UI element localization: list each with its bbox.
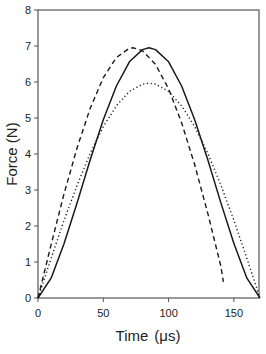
y-axis-ticks: 012345678: [25, 4, 38, 304]
y-axis-title: Force (N): [3, 122, 20, 185]
y-tick-label: 8: [25, 4, 31, 16]
plot-frame: [38, 10, 259, 298]
y-tick-label: 3: [25, 184, 31, 196]
series-solid-line: [38, 48, 260, 298]
y-tick-label: 2: [25, 220, 31, 232]
x-tick-label: 100: [159, 307, 177, 319]
x-tick-label: 150: [225, 307, 243, 319]
x-tick-label: 50: [97, 307, 109, 319]
x-axis-title: Time(μs): [116, 327, 181, 344]
x-tick-label: 0: [35, 307, 41, 319]
y-tick-label: 4: [25, 148, 31, 160]
force-time-chart: 012345678 050100150 Force (N) Time(μs): [0, 0, 266, 354]
x-axis-ticks: 050100150: [35, 298, 243, 319]
data-series: [38, 48, 260, 298]
x-axis-unit: (μs): [154, 327, 180, 344]
y-tick-label: 5: [25, 112, 31, 124]
y-tick-label: 0: [25, 292, 31, 304]
y-tick-label: 7: [25, 40, 31, 52]
y-tick-label: 6: [25, 76, 31, 88]
series-dotted-line: [38, 83, 260, 298]
y-tick-label: 1: [25, 256, 31, 268]
x-axis-title-text: Time: [116, 327, 149, 344]
series-dashed-line: [38, 48, 223, 298]
